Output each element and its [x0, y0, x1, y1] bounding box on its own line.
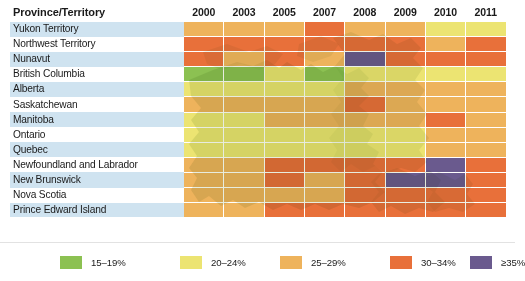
heatmap-cell — [224, 127, 264, 142]
legend-label: 25–29% — [311, 257, 346, 268]
heatmap-cell — [264, 52, 304, 67]
legend-item: 15–19% — [60, 256, 126, 269]
heatmap-cell — [385, 172, 425, 187]
column-header-year: 2008 — [345, 6, 385, 22]
column-header-year: 2009 — [385, 6, 425, 22]
heatmap-cell — [224, 22, 264, 37]
heatmap-cell — [345, 112, 385, 127]
row-label-province: Newfoundland and Labrador — [10, 157, 184, 172]
legend: 15–19%20–24%25–29%30–34%≥35% — [0, 242, 515, 281]
row-label-province: Nunavut — [10, 52, 184, 67]
heatmap-cell — [345, 52, 385, 67]
heatmap-cell — [304, 67, 344, 82]
legend-item: ≥35% — [470, 256, 525, 269]
table-row: Saskatchewan — [10, 97, 506, 112]
heatmap-cell — [385, 67, 425, 82]
table-header: Province/Territory 200020032005200720082… — [10, 6, 506, 22]
heatmap-cell — [345, 188, 385, 203]
table-row: Nova Scotia — [10, 188, 506, 203]
heatmap-cell — [184, 188, 224, 203]
column-header-year: 2003 — [224, 6, 264, 22]
heatmap-cell — [345, 172, 385, 187]
heatmap-cell — [385, 157, 425, 172]
heatmap-cell — [466, 157, 506, 172]
heatmap-cell — [304, 172, 344, 187]
heatmap-cell — [425, 22, 465, 37]
table-row: Nunavut — [10, 52, 506, 67]
legend-label: ≥35% — [501, 257, 525, 268]
heatmap-cell — [466, 172, 506, 187]
heatmap-cell — [224, 37, 264, 52]
heatmap-cell — [385, 188, 425, 203]
heatmap-cell — [345, 67, 385, 82]
row-label-province: Quebec — [10, 142, 184, 157]
heatmap-cell — [264, 82, 304, 97]
heatmap-cell — [264, 188, 304, 203]
heatmap-cell — [385, 22, 425, 37]
column-header-year: 2007 — [304, 6, 344, 22]
heatmap-cell — [425, 52, 465, 67]
heatmap-cell — [264, 97, 304, 112]
row-label-province: Ontario — [10, 127, 184, 142]
heatmap-cell — [184, 82, 224, 97]
heatmap-cell — [184, 67, 224, 82]
row-label-province: Yukon Territory — [10, 22, 184, 37]
heatmap-cell — [425, 142, 465, 157]
heatmap-cell — [425, 112, 465, 127]
heatmap-table-container: Province/Territory 200020032005200720082… — [10, 6, 506, 217]
heatmap-cell — [224, 157, 264, 172]
heatmap-cell — [304, 37, 344, 52]
heatmap-cell — [466, 52, 506, 67]
heatmap-cell — [184, 157, 224, 172]
table-row: Northwest Territory — [10, 37, 506, 52]
heatmap-cell — [264, 203, 304, 218]
heatmap-cell — [184, 142, 224, 157]
heatmap-cell — [385, 112, 425, 127]
table-row: Prince Edward Island — [10, 203, 506, 218]
row-label-province: Manitoba — [10, 112, 184, 127]
table-body: Yukon TerritoryNorthwest TerritoryNunavu… — [10, 22, 506, 217]
legend-label: 30–34% — [421, 257, 456, 268]
heatmap-cell — [345, 203, 385, 218]
heatmap-cell — [304, 112, 344, 127]
column-header-province: Province/Territory — [10, 6, 184, 22]
row-label-province: British Columbia — [10, 67, 184, 82]
heatmap-cell — [345, 127, 385, 142]
heatmap-cell — [304, 157, 344, 172]
heatmap-cell — [466, 97, 506, 112]
heatmap-cell — [224, 172, 264, 187]
heatmap-cell — [304, 97, 344, 112]
row-label-province: Saskatchewan — [10, 97, 184, 112]
heatmap-cell — [184, 97, 224, 112]
heatmap-cell — [304, 82, 344, 97]
heatmap-cell — [466, 203, 506, 218]
heatmap-cell — [345, 37, 385, 52]
row-label-province: Prince Edward Island — [10, 203, 184, 218]
heatmap-cell — [184, 112, 224, 127]
heatmap-cell — [184, 127, 224, 142]
heatmap-cell — [264, 127, 304, 142]
heatmap-cell — [385, 52, 425, 67]
header-row: Province/Territory 200020032005200720082… — [10, 6, 506, 22]
heatmap-cell — [184, 52, 224, 67]
heatmap-cell — [466, 142, 506, 157]
heatmap-cell — [345, 82, 385, 97]
table-row: New Brunswick — [10, 172, 506, 187]
heatmap-cell — [184, 172, 224, 187]
legend-item: 20–24% — [180, 256, 246, 269]
heatmap-cell — [264, 172, 304, 187]
column-header-year: 2005 — [264, 6, 304, 22]
legend-swatch — [60, 256, 82, 269]
heatmap-cell — [224, 142, 264, 157]
heatmap-cell — [345, 22, 385, 37]
heatmap-cell — [425, 172, 465, 187]
heatmap-cell — [264, 22, 304, 37]
heatmap-cell — [385, 82, 425, 97]
column-header-year: 2000 — [184, 6, 224, 22]
column-header-year: 2010 — [425, 6, 465, 22]
heatmap-cell — [385, 127, 425, 142]
heatmap-cell — [345, 142, 385, 157]
heatmap-cell — [385, 37, 425, 52]
heatmap-cell — [425, 37, 465, 52]
